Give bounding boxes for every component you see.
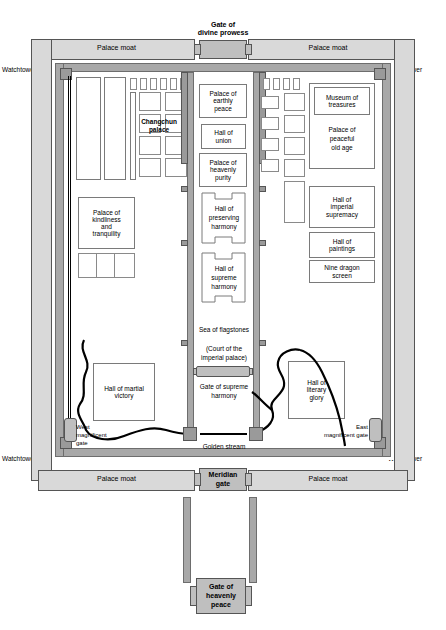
moat-left-side [31,39,52,481]
court-of-imperial-palace-label-line2: imperial palace) [188,354,260,361]
gate-of-divine-prowess[interactable] [199,40,247,59]
palace-heavenly-purity-label-line3: purity [215,174,231,181]
gate-of-divine-prowess-label-line1: Gate of [173,21,273,29]
nine-dragon-screen-label-line1: Nine dragon [324,264,359,271]
palace-of-earthly-peace[interactable]: Palace of earthly peace [199,84,247,118]
east-magnificent-gate[interactable] [369,418,382,442]
golden-stream-bridge-west [183,427,197,441]
hall-of-imperial-supremacy[interactable]: Hall of imperial supremacy [309,186,375,228]
approach-wall-right [249,497,257,583]
sea-of-flagstones-label: Sea of flagstones [188,326,260,333]
hall-union-label-line1: Hall of [214,129,232,136]
palace-peaceful-old-age-label-line3: old age [312,144,372,151]
palace-earthly-peace-label-line2: earthly [213,97,233,104]
hall-literary-glory-label-line2: literary [307,386,327,393]
palace-earthly-peace-label-line3: peace [214,105,232,112]
hall-supreme-harmony-label-line1: Hall of [199,265,249,272]
moat-right-side [394,39,415,481]
golden-stream-label: Golden stream [196,443,252,450]
hall-preserving-harmony-label-line1: Hall of [199,205,249,212]
palace-earthly-peace-label-line1: Palace of [209,90,236,97]
hall-imperial-supremacy-label-line3: supremacy [326,211,358,218]
gate-of-heavenly-peace-wing-right [245,586,252,606]
gate-of-supreme-harmony-label-line1: Gate of supreme [185,383,263,390]
hall-of-literary-glory[interactable]: Hall of literary glory [288,361,345,419]
moat-bottom-right-label: Palace moat [248,475,408,483]
east-small-room [273,78,280,90]
wall-stub-left-bottom [181,340,188,346]
west-small-room [150,78,157,90]
nine-dragon-screen[interactable]: Nine dragon screen [309,260,375,283]
moat-top-right-label: Palace moat [248,44,408,52]
palace-of-heavenly-purity[interactable]: Palace of heavenly purity [199,153,247,187]
meridian-gate-label-line2: gate [199,480,247,488]
hall-supreme-harmony-label-line2: supreme [199,274,249,281]
gate-of-heavenly-peace-label-line2: heavenly [196,592,246,600]
city-wall-right [382,63,391,457]
palace-kindliness-label-line2: kindliness [92,216,121,223]
inner-court-wall-left [187,72,194,434]
inner-west-boundary-line [68,76,69,428]
palace-of-kindliness-and-tranquility[interactable]: Palace of kindliness and tranquility [78,197,135,249]
east-grid-cell-tall [284,181,305,223]
west-magnificent-gate-label-line3: gate [76,440,126,447]
wall-stub-left-upper [181,72,188,164]
west-small-room [170,78,177,90]
west-long-hall-1 [76,77,101,180]
city-wall-left [55,63,64,457]
hall-imperial-supremacy-label-line2: imperial [331,203,354,210]
golden-stream-bridge-east [249,427,263,441]
changchun-palace-label-line1: Changchun [129,118,189,125]
hall-martial-victory-label-line2: victory [115,392,134,399]
inner-west-boundary-line-2 [70,76,71,428]
west-small-room [160,78,167,90]
gate-of-supreme-harmony[interactable] [196,366,250,377]
east-grid-cell-small [261,117,279,130]
wall-stub-right-mid [259,186,266,192]
wall-stub-right-bottom [259,340,266,346]
east-grid-cell-small [261,159,279,172]
west-magnificent-gate-label-line1: West [76,424,126,431]
hall-literary-glory-label-line1: Hall of [307,379,325,386]
west-courtyard-cell [78,253,97,278]
west-courtyard-cell [96,253,115,278]
gate-of-divine-prowess-wing-left [194,44,201,55]
gate-of-heavenly-peace-label-line1: Gate of [196,583,246,591]
gate-of-divine-prowess-wing-right [245,44,252,55]
city-wall-top [55,63,391,72]
east-magnificent-gate-label-line2: magnificent gate [296,432,368,439]
hall-paintings-label-line1: Hall of [333,238,351,245]
hall-paintings-label-line2: paintings [329,245,355,252]
east-grid-cell-small [261,138,279,151]
gate-of-supreme-harmony-label-line2: harmony [185,392,263,399]
changchun-grid-cell [139,136,161,155]
nine-dragon-screen-label-line2: screen [332,272,352,279]
west-small-room [140,78,147,90]
watchtower-corner-top-right [374,68,386,80]
palace-kindliness-label-line1: Palace of [93,209,120,216]
gate-of-supreme-harmony-wing-left [193,368,197,375]
moat-bottom-left-label: Palace moat [38,475,195,483]
west-long-hall-2 [104,77,126,180]
east-small-room [283,78,290,90]
hall-of-paintings[interactable]: Hall of paintings [309,232,375,258]
hall-of-martial-victory[interactable]: Hall of martial victory [93,363,155,421]
east-magnificent-gate-label-line1: East [316,424,368,431]
wall-stub-left-mid [181,186,188,192]
gate-of-supreme-harmony-wing-right [249,368,253,375]
west-courtyard-cell [114,253,135,278]
wall-stub-left-lower [181,240,188,246]
court-of-imperial-palace-label-line1: (Court of the [188,345,260,352]
hall-preserving-harmony-label-line3: harmony [199,223,249,230]
museum-of-treasures[interactable]: Museum of treasures [314,87,370,115]
hall-literary-glory-label-line3: glory [309,394,323,401]
hall-of-union[interactable]: Hall of union [201,124,246,149]
hall-supreme-harmony-label-line3: harmony [199,283,249,290]
changchun-palace-label-line2: palace [129,126,189,133]
east-small-room [263,78,270,90]
west-narrow-strip [130,92,136,180]
west-magnificent-gate-label-line2: magnificent [76,432,126,439]
museum-treasures-label-line2: treasures [328,101,355,108]
gate-of-divine-prowess-label-line2: divine prowess [173,29,273,37]
east-grid-cell [284,137,305,155]
